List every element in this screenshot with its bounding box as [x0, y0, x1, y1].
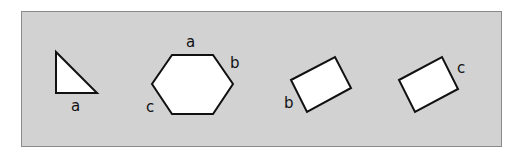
hexagon-label-c: c [146, 98, 154, 116]
rectangle-1-label-b: b [284, 94, 294, 112]
rectangle-2-label-c: c [457, 59, 465, 77]
hexagon-label-a: a [186, 33, 195, 51]
diagram: a a b c b c [0, 0, 522, 156]
triangle-label-a: a [71, 97, 80, 115]
hexagon-label-b: b [230, 54, 240, 72]
